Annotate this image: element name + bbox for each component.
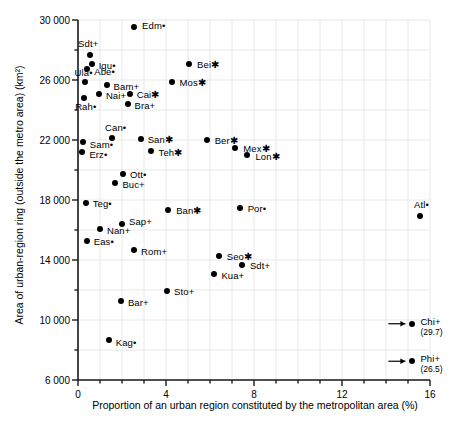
data-point-label: Sam• [90,139,113,150]
data-point-label: Abe• [94,66,115,77]
data-point [138,136,144,142]
data-point-label: Atl• [414,199,429,210]
data-point [127,91,133,97]
data-point-label: Chi+ [420,316,440,327]
data-point [131,247,137,253]
data-point-label: Seo✱ [227,251,252,262]
data-point [118,298,124,304]
data-point-label: Rah• [75,101,96,112]
y-tick-label: 22 000 [18,135,70,146]
data-point [211,271,217,277]
data-point-label: Can• [105,122,126,133]
data-point-label: Eas• [94,236,114,247]
data-point [204,137,210,143]
data-point-annotation: (26.5) [420,364,442,374]
data-point-label: Ber✱ [215,135,238,146]
y-tick-label: 26 000 [18,75,70,86]
data-point [125,101,131,107]
data-point [112,180,118,186]
plot-canvas [0,0,452,421]
data-point-label: Sdt+ [78,38,98,49]
data-point [148,148,154,154]
y-tick-label: 10 000 [18,315,70,326]
data-point [417,213,423,219]
data-point-label: Mos✱ [180,77,206,88]
grid-lines [78,20,430,380]
data-point-label: Phi+ [420,353,440,364]
y-tick-label: 30 000 [18,15,70,26]
data-point-label: Nan+ [107,225,130,236]
data-point-label: Por• [248,203,267,214]
data-point [216,253,222,259]
data-point-label: Buc+ [122,179,144,190]
data-point-label: Erz• [89,149,107,160]
y-tick-label: 14 000 [18,255,70,266]
data-point-label: Edm• [142,20,165,31]
data-point [120,171,126,177]
data-point [106,337,112,343]
data-point [186,61,192,67]
annotation-arrows [388,321,405,364]
data-point-label: Ula• [75,67,93,78]
data-point-label: Lon✱ [255,151,279,162]
data-point [409,358,415,364]
data-point-label: Rom+ [141,246,167,257]
data-point [82,79,88,85]
data-point-label: Kua+ [221,270,244,281]
data-point-label: Sto+ [174,286,194,297]
y-tick-label: 6 000 [18,375,70,386]
data-point [239,262,245,268]
data-point [131,24,137,30]
data-point [97,226,103,232]
y-axis-title: Area of urban-region ring (outside the m… [13,20,25,370]
data-point [83,200,89,206]
data-point-label: Sdt+ [250,260,270,271]
data-point-label: Ban✱ [176,205,201,216]
data-point-label: Bra+ [135,100,156,111]
data-point [79,149,85,155]
data-point [237,205,243,211]
data-point [165,207,171,213]
data-point-label: Bar+ [128,297,149,308]
data-point [409,321,415,327]
data-point-label: Cai✱ [137,89,160,100]
data-point-label: Sap+ [129,216,152,227]
data-point-label: Teg• [93,198,112,209]
data-point [96,91,102,97]
data-point [104,82,110,88]
data-point [80,139,86,145]
data-point-label: Nai+ [106,90,126,101]
data-point [164,288,170,294]
data-point-label: Bei✱ [197,59,219,70]
data-point-label: Kag• [116,337,137,348]
data-point-annotation: (29.7) [420,327,442,337]
scatter-plot-figure: Edm•Sdt+Iqu•Abe•Ula•Bam+Nai+Rah•Cai✱Bra+… [0,0,452,421]
data-point-label: Teh✱ [159,147,183,158]
x-axis-title: Proportion of an urban region constitute… [60,399,450,411]
data-point-label: San✱ [148,134,173,145]
data-point [87,52,93,58]
data-point [169,79,175,85]
data-point [84,238,90,244]
y-tick-label: 18 000 [18,195,70,206]
